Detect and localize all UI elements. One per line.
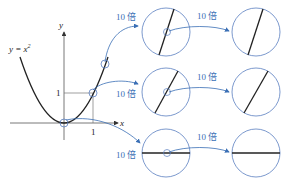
tick-y-1: 1 <box>56 88 61 98</box>
magnification-diagram: y = x2 y x 1 1 10 倍 10 倍 10 倍 10 倍 10 倍 … <box>0 0 287 185</box>
row-point-1-1: 10 倍 <box>142 68 280 116</box>
zoom-label-row2-first: 10 倍 <box>116 88 136 99</box>
arrow-origin-to-zoom1 <box>66 119 140 143</box>
tick-x-1: 1 <box>91 127 96 137</box>
arrow-steep-to-zoom1 <box>105 26 138 62</box>
zoom-label-row1-first: 10 倍 <box>116 11 136 22</box>
row-origin: 10 倍 <box>142 129 280 177</box>
curve-label: y = x2 <box>8 43 31 54</box>
x-axis-label: x <box>119 118 124 128</box>
zoom-label-row3-first: 10 倍 <box>116 149 136 160</box>
y-axis-label: y <box>58 20 63 30</box>
row-steep: 10 倍 <box>142 8 280 56</box>
zoom-label-row2-second: 10 倍 <box>197 71 217 82</box>
zoom-label-row1-second: 10 倍 <box>197 10 217 21</box>
zoom-label-row3-second: 10 倍 <box>197 131 217 142</box>
